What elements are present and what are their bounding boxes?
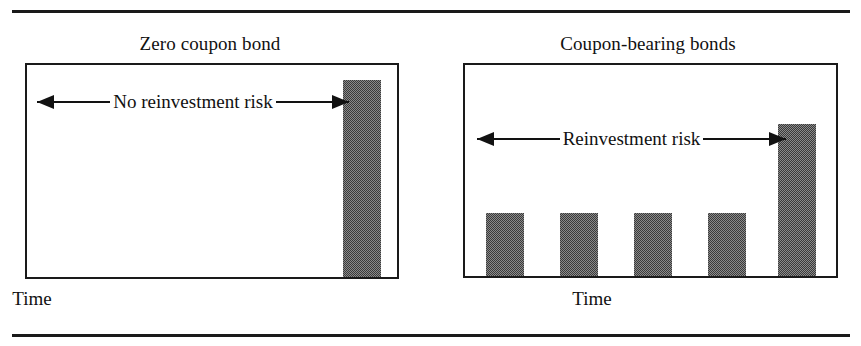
arrow-head-right-icon: [769, 132, 786, 146]
annotation-reinvestment-risk: Reinvestment risk: [477, 126, 786, 152]
annotation-label-no-reinvestment-risk: No reinvestment risk: [110, 91, 275, 113]
bar-coupon-2: [560, 213, 598, 276]
arrow-head-left-icon: [477, 132, 494, 146]
bar-coupon-1: [486, 213, 524, 276]
axis-label-time-right: Time: [397, 288, 787, 310]
bar-coupon-4: [708, 213, 746, 276]
arrow-head-right-icon: [332, 95, 349, 109]
panel-coupon-bearing-bonds: Coupon-bearing bonds Reinvestment risk T…: [453, 30, 843, 320]
panel-zero-coupon-bond: Zero coupon bond No reinvestment risk Ti…: [15, 30, 405, 320]
annotation-no-reinvestment-risk: No reinvestment risk: [37, 89, 349, 115]
axis-label-time-left: Time: [0, 288, 227, 310]
top-horizontal-rule: [12, 10, 850, 13]
annotation-label-reinvestment-risk: Reinvestment risk: [560, 128, 704, 150]
plot-area-coupon-bearing-bonds: Reinvestment risk: [463, 63, 838, 278]
arrow-head-left-icon: [37, 95, 54, 109]
panel-title-coupon-bearing-bonds: Coupon-bearing bonds: [453, 33, 843, 55]
bottom-horizontal-rule: [12, 334, 850, 337]
panel-title-zero-coupon-bond: Zero coupon bond: [15, 33, 405, 55]
bar-coupon-3: [634, 213, 672, 276]
figure-container: Zero coupon bond No reinvestment risk Ti…: [0, 0, 861, 346]
plot-area-zero-coupon-bond: No reinvestment risk: [25, 63, 399, 279]
